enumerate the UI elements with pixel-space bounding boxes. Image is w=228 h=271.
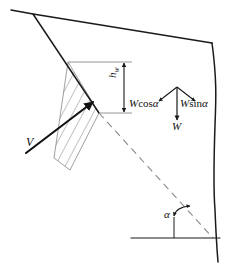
wsin-function-name: sin bbox=[189, 97, 202, 109]
wsin-angle-symbol: α bbox=[202, 97, 208, 109]
velocity-label: V bbox=[26, 136, 33, 148]
right-boundary-line bbox=[212, 43, 218, 262]
weight-normal-component-label: Wcosα bbox=[129, 98, 159, 109]
slope-angle-label: α bbox=[164, 209, 170, 220]
water-height-label: hw bbox=[107, 67, 121, 78]
dashed-projection-line bbox=[99, 113, 213, 238]
wcos-W-symbol: W bbox=[129, 97, 138, 109]
wsin-W-symbol: W bbox=[180, 97, 189, 109]
wcos-angle-symbol: α bbox=[153, 97, 159, 109]
wcos-function-name: cos bbox=[138, 97, 153, 109]
slope-stability-diagram: V hw Wcosα Wsinα W α bbox=[0, 0, 228, 271]
weight-label: W bbox=[172, 121, 181, 132]
diagram-canvas bbox=[0, 0, 228, 271]
water-height-symbol: h bbox=[106, 73, 118, 79]
slope-angle-arc bbox=[174, 206, 190, 216]
water-height-subscript: w bbox=[112, 67, 121, 72]
weight-shear-component-label: Wsinα bbox=[180, 98, 208, 109]
weight-component-wcos-arrow bbox=[159, 87, 177, 101]
